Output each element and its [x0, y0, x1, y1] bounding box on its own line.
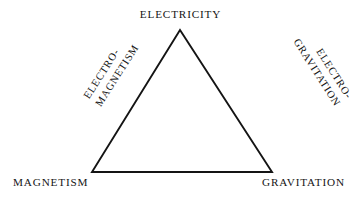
triangle-shape	[0, 0, 361, 200]
vertex-label-electricity: ELECTRICITY	[0, 9, 361, 20]
vertex-label-magnetism: MAGNETISM	[13, 177, 88, 188]
diagram-canvas: ELECTRICITY MAGNETISM GRAVITATION ELECTR…	[0, 0, 361, 200]
vertex-label-gravitation: GRAVITATION	[262, 177, 345, 188]
